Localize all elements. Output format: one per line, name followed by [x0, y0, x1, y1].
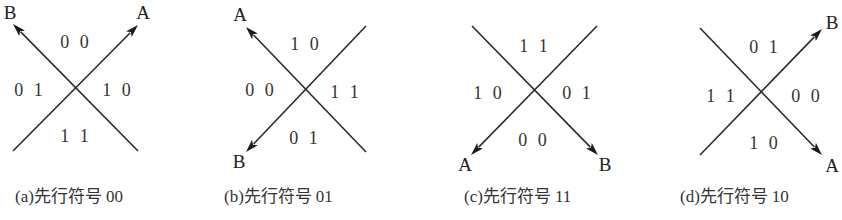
- caption-letter: b: [230, 187, 239, 206]
- caption-code: 10: [772, 187, 789, 206]
- region-code-right: 0 1: [562, 83, 594, 103]
- endpoint-label-a: A: [458, 154, 472, 175]
- region-code-right: 1 0: [102, 80, 134, 100]
- caption-code: 00: [106, 187, 123, 206]
- caption-code: 11: [555, 187, 571, 206]
- crossing-diagram-d: AB0 11 10 01 0: [700, 12, 839, 176]
- crossing-diagram-a: AB0 00 11 01 1: [4, 2, 150, 152]
- endpoint-label-a: A: [825, 155, 839, 176]
- crossing-diagram-b: AB1 00 01 10 1: [233, 4, 366, 172]
- crossing-diagram-c: AB1 11 00 10 0: [458, 26, 611, 175]
- region-code-left: 1 0: [473, 83, 505, 103]
- caption-b: (b)先行符号01: [224, 183, 333, 209]
- endpoint-label-a: A: [136, 2, 150, 23]
- region-code-right: 1 1: [330, 82, 362, 102]
- endpoint-label-b: B: [599, 154, 612, 175]
- endpoint-label-b: B: [826, 12, 839, 33]
- caption-text: 先行符号: [244, 186, 312, 206]
- caption-a: (a)先行符号00: [15, 183, 123, 209]
- region-code-left: 1 1: [706, 86, 738, 106]
- region-code-top: 1 0: [290, 34, 322, 54]
- region-code-top: 1 1: [519, 36, 551, 56]
- region-code-left: 0 0: [245, 80, 277, 100]
- region-code-top: 0 0: [60, 32, 92, 52]
- endpoint-label-b: B: [233, 151, 246, 172]
- region-code-right: 0 0: [791, 86, 823, 106]
- region-code-bottom: 0 1: [289, 128, 321, 148]
- caption-text: 先行符号: [34, 186, 102, 206]
- region-code-bottom: 0 0: [518, 130, 550, 150]
- region-code-left: 0 1: [14, 80, 46, 100]
- region-code-bottom: 1 1: [60, 126, 92, 146]
- region-code-top: 0 1: [749, 37, 781, 57]
- caption-d: (d)先行符号10: [680, 183, 789, 209]
- caption-text: 先行符号: [700, 186, 768, 206]
- endpoint-label-a: A: [233, 4, 247, 25]
- region-code-bottom: 1 0: [749, 133, 781, 153]
- caption-code: 01: [316, 187, 333, 206]
- caption-text: 先行符号: [483, 186, 551, 206]
- endpoint-label-b: B: [4, 2, 17, 23]
- caption-letter: d: [686, 187, 695, 206]
- caption-c: (c)先行符号11: [464, 183, 571, 209]
